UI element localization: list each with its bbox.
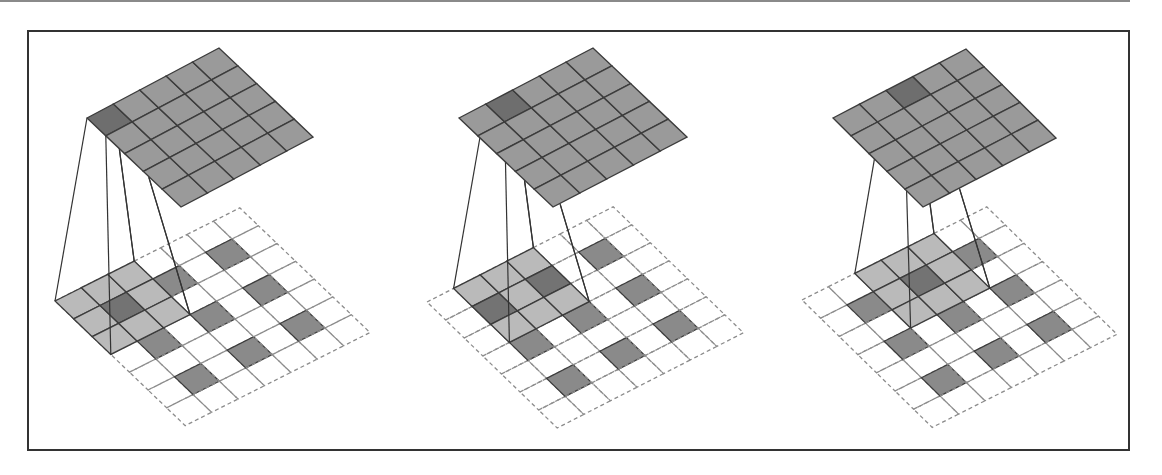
zero-padding-cell xyxy=(539,396,584,428)
panel-step-3 xyxy=(802,49,1117,427)
input-value-cell xyxy=(990,275,1035,307)
zero-padding-cell xyxy=(219,368,264,399)
projection-line-visible xyxy=(930,204,934,234)
zero-padding-cell xyxy=(587,207,632,239)
input-value-cell xyxy=(280,310,325,341)
input-value-cell xyxy=(206,239,251,270)
zero-padding-cell xyxy=(960,207,1005,239)
input-value-cell xyxy=(600,338,645,370)
zero-padding-cell xyxy=(982,306,1027,338)
input-value-cell xyxy=(653,310,698,342)
input-value-cell xyxy=(616,274,661,306)
input-value-cell xyxy=(243,275,288,306)
zero-padding-cell xyxy=(555,333,600,365)
zero-padding-cell xyxy=(251,244,296,275)
zero-padding-cell xyxy=(929,333,974,365)
input-grid xyxy=(427,207,743,428)
input-value-cell xyxy=(174,363,219,394)
projection-line-visible xyxy=(525,181,534,247)
zero-padding-cell xyxy=(661,279,706,311)
zero-padding-cell xyxy=(272,341,317,372)
zero-padding-cell xyxy=(998,243,1043,274)
zero-padding-cell xyxy=(698,315,743,347)
input-value-cell xyxy=(227,337,272,368)
zero-padding-cell xyxy=(501,360,546,392)
input-value-cell xyxy=(884,328,929,360)
zero-padding-cell xyxy=(645,342,690,374)
zero-padding-cell xyxy=(1035,280,1080,312)
zero-padding-cell xyxy=(608,306,653,338)
zero-padding-cell xyxy=(325,315,370,346)
transposed-convolution-diagram xyxy=(0,0,1162,475)
panel-step-2 xyxy=(427,48,743,428)
zero-padding-cell xyxy=(1072,316,1117,348)
zero-padding-cell xyxy=(129,359,174,390)
output-grid xyxy=(87,48,313,207)
input-grid xyxy=(802,207,1117,428)
input-value-cell xyxy=(190,301,235,332)
zero-padding-cell xyxy=(592,369,637,401)
zero-padding-cell xyxy=(802,287,847,319)
zero-padding-cell xyxy=(1019,343,1064,375)
input-value-cell xyxy=(1027,311,1072,343)
zero-padding-cell xyxy=(198,270,243,301)
zero-padding-cell xyxy=(213,208,258,239)
zero-padding-cell xyxy=(839,323,884,355)
zero-padding-cell xyxy=(235,306,280,337)
zero-padding-cell xyxy=(876,360,921,392)
zero-padding-cell xyxy=(288,279,333,310)
zero-padding-cell xyxy=(624,243,669,275)
projection-line-visible xyxy=(119,150,134,262)
panel-step-1 xyxy=(55,48,370,426)
input-value-cell xyxy=(921,364,966,396)
zero-padding-cell xyxy=(167,395,212,426)
projection-line xyxy=(55,118,87,301)
kernel-window xyxy=(454,248,590,343)
input-value-cell xyxy=(547,365,592,397)
input-value-cell xyxy=(579,238,624,270)
zero-padding-cell xyxy=(966,369,1011,401)
output-grid xyxy=(833,49,1056,207)
output-grid xyxy=(459,48,687,207)
input-value-cell xyxy=(974,338,1019,370)
zero-padding-cell xyxy=(914,396,959,428)
zero-padding-cell xyxy=(182,332,227,363)
